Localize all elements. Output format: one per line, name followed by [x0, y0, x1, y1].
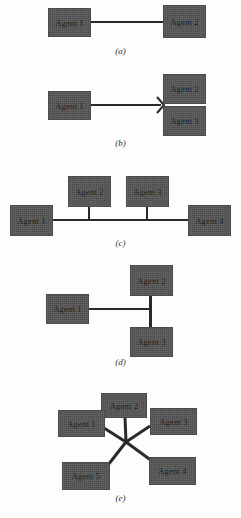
- edge-e-agent-3: [126, 426, 150, 442]
- node-e-agent-3[interactable]: Agent 3: [150, 408, 197, 435]
- node-e-agent-2[interactable]: Agent 2: [101, 393, 147, 418]
- edge-c-stub-agent-2: [88, 206, 90, 220]
- figure-a: Agent 1 Agent 2 (a): [0, 0, 241, 62]
- edge-e-agent-2: [125, 417, 126, 442]
- node-b-agent-1[interactable]: Agent 1: [48, 91, 91, 120]
- edge-a-1-2: [90, 21, 164, 23]
- node-e-agent-4[interactable]: Agent 4: [149, 457, 196, 485]
- node-d-agent-1[interactable]: Agent 1: [46, 294, 89, 324]
- node-e-agent-1[interactable]: Agent 1: [58, 410, 105, 437]
- node-d-agent-2[interactable]: Agent 2: [130, 265, 173, 296]
- edge-c-bus: [48, 219, 196, 221]
- edge-d-horizontal: [88, 308, 152, 310]
- node-a-agent-1[interactable]: Agent 1: [48, 8, 91, 37]
- edge-d-vertical: [149, 295, 152, 329]
- node-c-agent-4[interactable]: Agent 4: [188, 205, 231, 236]
- edge-e-agent-5: [108, 442, 126, 465]
- node-b-agent-2[interactable]: Agent 2: [163, 74, 206, 104]
- node-a-agent-2[interactable]: Agent 2: [163, 5, 206, 38]
- edge-c-stub-agent-3: [146, 206, 148, 220]
- node-c-agent-2[interactable]: Agent 2: [68, 176, 111, 207]
- node-c-agent-3[interactable]: Agent 3: [126, 176, 169, 207]
- figure-c: Agent 1 Agent 2 Agent 3 Agent 4 (c): [0, 172, 241, 252]
- node-b-agent-3[interactable]: Agent 3: [163, 106, 206, 136]
- figure-d: Agent 1 Agent 2 Agent 3 (d): [0, 262, 241, 370]
- caption-d: (d): [0, 357, 241, 367]
- caption-a: (a): [0, 46, 241, 56]
- caption-c: (c): [0, 238, 241, 248]
- figure-e: Agent 2 Agent 1 Agent 3 Agent 4 Agent 5 …: [0, 388, 241, 518]
- node-d-agent-3[interactable]: Agent 3: [130, 327, 173, 357]
- node-c-agent-1[interactable]: Agent 1: [10, 205, 53, 236]
- node-e-agent-5[interactable]: Agent 5: [62, 462, 110, 490]
- edge-e-agent-1: [104, 428, 126, 442]
- figure-b: Agent 1 Agent 2 Agent 3 (b): [0, 66, 241, 148]
